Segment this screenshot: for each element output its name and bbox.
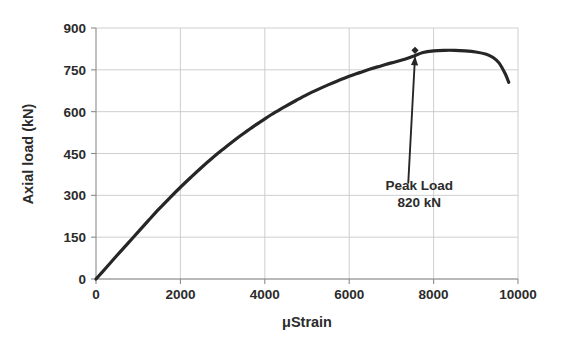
- x-tick-label-10000: 10000: [499, 287, 537, 302]
- axial-load-strain-chart: 0200040006000800010000 01503004506007509…: [0, 0, 564, 342]
- y-tick-label-300: 300: [63, 188, 86, 203]
- y-axis-title: Axial load (kN): [20, 103, 36, 204]
- peak-load-label-line2: 820 kN: [398, 195, 442, 210]
- x-tick-label-6000: 6000: [334, 287, 364, 302]
- peak-load-label-line1: Peak Load: [386, 178, 454, 193]
- y-tick-label-150: 150: [63, 230, 86, 245]
- y-tick-label-0: 0: [78, 272, 86, 287]
- x-tick-label-8000: 8000: [419, 287, 449, 302]
- y-tick-label-900: 900: [63, 21, 86, 36]
- y-tick-label-600: 600: [63, 105, 86, 120]
- chart-container: 0200040006000800010000 01503004506007509…: [0, 0, 564, 342]
- x-tick-label-4000: 4000: [250, 287, 280, 302]
- y-tick-label-450: 450: [63, 147, 86, 162]
- y-tick-label-750: 750: [63, 63, 86, 78]
- x-tick-label-2000: 2000: [165, 287, 195, 302]
- x-tick-label-0: 0: [92, 287, 100, 302]
- x-axis-title: μStrain: [282, 314, 332, 330]
